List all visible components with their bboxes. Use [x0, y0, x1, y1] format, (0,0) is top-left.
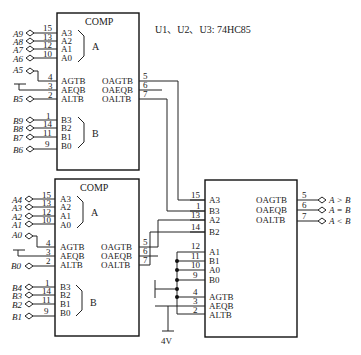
- u2-signal-b0: B0: [11, 261, 21, 271]
- u1-b-group-label: B: [92, 128, 99, 139]
- u3-pin-b0: B0: [209, 275, 220, 285]
- u1-b-inputs: B9 B8 B7 B6 1 14 11 9 B3 B2 B1 B0: [13, 111, 72, 155]
- junction-dot: [175, 268, 179, 272]
- u1-port-a9[interactable]: [26, 30, 34, 36]
- u3-pin-num-10: 10: [191, 260, 201, 270]
- u1-pin-num-10: 10: [43, 49, 53, 59]
- u2-a-group-label: A: [91, 207, 99, 218]
- u3-pin-oaeqb: OAEQB: [256, 205, 287, 215]
- u2-port-a3[interactable]: [25, 204, 33, 210]
- u1-a-inputs: A9 A8 A7 A6 15 13 12 10 A3 A2 A1 A0: [12, 23, 72, 64]
- u3-pin-a2: A2: [209, 215, 220, 225]
- u1-port-a8[interactable]: [26, 38, 34, 44]
- u2-title: COMP: [80, 182, 109, 193]
- u3-pin-altb: ALTB: [209, 310, 232, 320]
- u1-port-a7[interactable]: [26, 46, 34, 52]
- junction-dot: [175, 259, 179, 263]
- u3-pin-a3: A3: [209, 195, 220, 205]
- u2-pin-altb: ALTB: [60, 260, 83, 270]
- u2-port-b3[interactable]: [25, 292, 33, 298]
- u3-pin-num-14: 14: [191, 222, 201, 232]
- u2-port-b4[interactable]: [25, 284, 33, 290]
- u2-b-inputs: B4 B3 B2 B1 1 14 11 9 B3 B2 B1 B0: [12, 278, 71, 322]
- u1-pin-oaltb: OALTB: [102, 94, 131, 104]
- u2-pin-num-2: 2: [46, 256, 51, 266]
- u1-pin-a0: A0: [61, 53, 72, 63]
- u3-pin-oaltb: OALTB: [256, 215, 285, 225]
- u1-pin-num-11: 11: [43, 128, 52, 138]
- u2-pin-num-11: 11: [42, 295, 51, 305]
- u3-pin-num-2: 2: [193, 305, 198, 315]
- u3-pin-num-9: 9: [193, 270, 198, 280]
- u2-port-a0[interactable]: [25, 233, 33, 239]
- u2-port-a1[interactable]: [25, 221, 33, 227]
- u1-pin-altb: ALTB: [61, 94, 84, 104]
- u2-a-inputs: A4 A3 A2 A1 15 13 12 10 A3 A2 A1 A0: [11, 190, 71, 230]
- u1-port-b5[interactable]: [26, 96, 34, 102]
- u2-pin-oaltb: OALTB: [101, 260, 130, 270]
- u2-signal-a0: A0: [11, 230, 22, 240]
- u2-port-b0[interactable]: [25, 263, 33, 269]
- u2-signal-a1: A1: [11, 220, 22, 230]
- junction-dot: [175, 295, 179, 299]
- u2-port-b1[interactable]: [25, 313, 33, 319]
- u1-signal-b5: B5: [13, 94, 23, 104]
- u3-pin-b2: B2: [209, 227, 220, 237]
- output-port-a-eq-b[interactable]: [318, 207, 326, 213]
- u1-port-b6[interactable]: [26, 146, 34, 152]
- u3-pin-num-13: 13: [191, 210, 201, 220]
- u2-signal-b2: B2: [12, 300, 22, 310]
- u1-pin-b0: B0: [61, 141, 72, 151]
- u3-out-num-5: 5: [302, 190, 307, 200]
- u1-signal-b7: B7: [13, 133, 23, 143]
- u2-port-a2[interactable]: [25, 213, 33, 219]
- u2-b-group-label: B: [90, 297, 97, 308]
- u1-a-group-label: A: [92, 41, 100, 52]
- u2-pin-b0: B0: [60, 308, 71, 318]
- chip-note: U1、U2、U3: 74HC85: [155, 24, 251, 35]
- u1-pin-num-2: 2: [48, 90, 53, 100]
- u1-title: COMP: [85, 16, 114, 27]
- result-a-lt-b: A < B: [328, 216, 351, 226]
- u1-signal-a6: A6: [12, 54, 23, 64]
- u2-pin-num-9: 9: [44, 306, 49, 316]
- u1-port-b9[interactable]: [26, 117, 34, 123]
- u1-pin-num-9: 9: [45, 139, 50, 149]
- result-a-eq-b: A = B: [328, 205, 351, 215]
- result-a-gt-b: A > B: [328, 195, 351, 205]
- u2-pin-a0: A0: [60, 220, 71, 230]
- supply-label: 4V: [161, 336, 173, 346]
- u1-port-b8[interactable]: [26, 125, 34, 131]
- u1-signal-b6: B6: [13, 145, 23, 155]
- u2-comparator: COMP A B A4 A3 A2 A1 15 13 12 10 A3 A2 A…: [11, 179, 148, 336]
- u3-pin-oagtb: OAGTB: [256, 195, 287, 205]
- u3-comparator: 4V 15 1 13 14 12 11 10 9 4 3 2 A3 B3 A2 …: [155, 180, 351, 346]
- output-port-a-lt-b[interactable]: [318, 218, 326, 224]
- junction-dot: [175, 287, 179, 291]
- u1-signal-a5: A5: [12, 65, 23, 75]
- comparator-schematic: U1、U2、U3: 74HC85 COMP A B A9 A8 A7 A6 15…: [0, 0, 361, 355]
- u3-pin-num-15: 15: [191, 190, 201, 200]
- u1-comparator: COMP A B A9 A8 A7 A6 15 13 12 10 A3 A2 A…: [12, 13, 148, 170]
- u3-pin-a0: A0: [209, 265, 220, 275]
- u1-port-b7[interactable]: [26, 134, 34, 140]
- u1-port-a5[interactable]: [26, 68, 34, 74]
- u1-port-a6[interactable]: [26, 55, 34, 61]
- u2-port-a4[interactable]: [25, 196, 33, 202]
- u2-pin-num-10: 10: [42, 215, 52, 225]
- u3-out-num-7: 7: [302, 211, 307, 221]
- u2-port-b2[interactable]: [25, 301, 33, 307]
- output-port-a-gt-b[interactable]: [318, 197, 326, 203]
- u2-signal-b1: B1: [12, 312, 22, 322]
- u3-pin-num-12: 12: [191, 241, 200, 251]
- u3-out-num-6: 6: [302, 200, 307, 210]
- junction-dot: [175, 278, 179, 282]
